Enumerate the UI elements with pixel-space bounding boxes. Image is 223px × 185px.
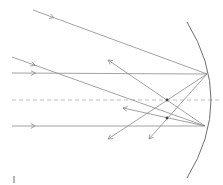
ray-diagram [0, 0, 223, 185]
incident-ray [12, 57, 205, 126]
focal-point-oblique [166, 117, 169, 120]
reflected-rays [108, 60, 207, 139]
focal-point-axis [166, 99, 169, 102]
focal-points [166, 99, 169, 120]
arrow-head-icon [108, 135, 113, 139]
arrow-head-icon [108, 60, 113, 64]
incident-rays [12, 10, 207, 128]
reflected-ray [123, 108, 205, 126]
incident-ray [12, 73, 207, 74]
incident-ray [33, 10, 207, 74]
